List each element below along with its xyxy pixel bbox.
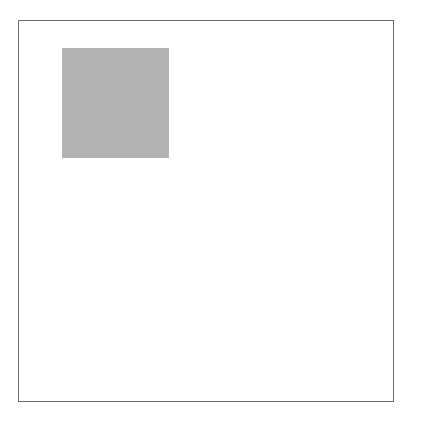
diagram-canvas (0, 0, 422, 442)
